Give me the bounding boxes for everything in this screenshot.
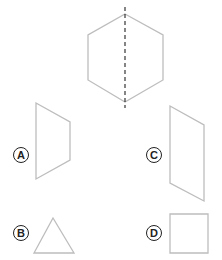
option-b-label[interactable]: B: [13, 225, 29, 241]
option-d-label[interactable]: D: [146, 225, 162, 241]
option-c-shape[interactable]: [170, 106, 204, 201]
option-d-shape[interactable]: [170, 214, 208, 253]
option-b-shape[interactable]: [34, 218, 74, 253]
option-c-label[interactable]: C: [146, 147, 162, 163]
option-a-shape[interactable]: [36, 103, 70, 179]
option-a-label[interactable]: A: [13, 147, 29, 163]
geometry-figure: [0, 0, 222, 260]
